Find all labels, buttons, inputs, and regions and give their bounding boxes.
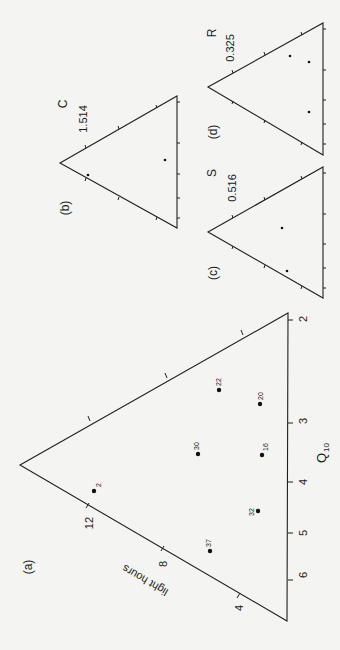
q10-tick-2: 2 xyxy=(297,316,309,322)
data-point xyxy=(208,549,212,553)
light-tick-12: 12 xyxy=(83,517,95,529)
q10-tick-4: 4 xyxy=(297,479,309,485)
tick xyxy=(264,197,265,200)
point-label: 32 xyxy=(248,508,255,516)
panel-b-label: (b) xyxy=(58,201,72,216)
data-point xyxy=(217,388,221,392)
panel-c-label: (c) xyxy=(206,266,220,280)
q10-tick-6: 6 xyxy=(297,572,309,578)
data-point xyxy=(281,227,284,230)
ternary-figure: 2 3 4 5 6 Q 10 12 8 4 light hours (a) 2 … xyxy=(0,0,340,650)
tick xyxy=(232,70,233,73)
data-point xyxy=(258,402,262,406)
light-tick-4: 4 xyxy=(233,605,245,611)
panel-d: (d) R 0.325 xyxy=(205,23,326,155)
panel-b-variable: C xyxy=(56,99,70,108)
q10-label-sub: 10 xyxy=(322,443,331,452)
tick xyxy=(156,217,157,220)
q10-tick-5: 5 xyxy=(297,530,309,536)
panel-d-variable: R xyxy=(205,28,219,37)
panel-b: (b) C 1.514 xyxy=(56,96,180,228)
panel-c-value: 0.516 xyxy=(226,174,238,202)
panel-a: 2 3 4 5 6 Q 10 12 8 4 light hours (a) 2 … xyxy=(20,313,331,621)
data-point xyxy=(196,452,200,456)
panel-a-triangle xyxy=(20,313,288,621)
point-label: 2 xyxy=(95,483,102,487)
data-point xyxy=(286,270,289,273)
point-label: 20 xyxy=(257,392,264,400)
tick xyxy=(85,178,86,181)
tick xyxy=(88,416,90,421)
tick xyxy=(301,286,302,289)
data-point xyxy=(92,489,96,493)
q10-label-main: Q xyxy=(314,453,329,463)
data-point xyxy=(308,61,311,64)
tick xyxy=(118,197,119,200)
tick xyxy=(85,145,86,148)
tick xyxy=(301,176,302,179)
data-point xyxy=(164,159,167,162)
panel-d-value: 0.325 xyxy=(224,34,236,62)
tick xyxy=(165,373,167,378)
data-point xyxy=(87,174,90,177)
data-point xyxy=(308,111,311,114)
tick xyxy=(237,593,240,598)
point-label: 16 xyxy=(262,443,269,451)
panel-c-variable: S xyxy=(205,169,219,177)
data-point xyxy=(260,453,264,457)
tick xyxy=(264,265,265,268)
panel-b-value: 1.514 xyxy=(77,105,89,133)
panel-a-label: (a) xyxy=(21,560,35,575)
light-tick-8: 8 xyxy=(157,561,169,567)
data-point xyxy=(256,509,260,513)
tick xyxy=(264,52,265,55)
panel-c: (c) S 0.516 xyxy=(205,167,326,298)
point-label: 30 xyxy=(193,442,200,450)
tick xyxy=(241,330,243,335)
point-label: 22 xyxy=(215,378,222,386)
q10-tick-3: 3 xyxy=(297,418,309,424)
tick xyxy=(232,215,233,218)
q10-axis-label: Q 10 xyxy=(314,443,331,464)
data-point xyxy=(289,55,292,58)
point-label: 37 xyxy=(205,539,212,547)
panel-d-label: (d) xyxy=(206,125,220,140)
tick xyxy=(118,126,119,129)
